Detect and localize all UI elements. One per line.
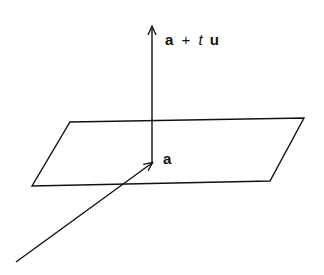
diagram-canvas: a + t u a [0, 0, 324, 275]
label-a-vector: a [165, 31, 174, 48]
label-u-vector: u [210, 31, 219, 48]
label-plus: + [182, 31, 191, 48]
label-point-a: a [163, 150, 172, 167]
label-a-plus-tu: a + t u [165, 31, 219, 48]
label-t: t [198, 31, 203, 48]
